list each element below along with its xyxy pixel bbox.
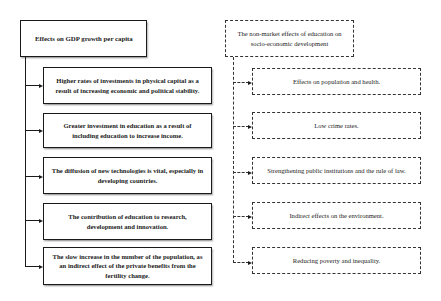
left-connector-1	[25, 85, 40, 86]
gdp-effect-item-2: Greater investment in education as a res…	[43, 113, 212, 148]
right-connector-5	[233, 262, 249, 263]
non-market-effect-item-3: Strengthening public institutions and th…	[252, 157, 421, 184]
right-connector-3	[233, 172, 249, 173]
left-connector-4	[25, 220, 40, 221]
non-market-effects-title: The non-market effects of education on s…	[232, 29, 347, 48]
gdp-effect-item-4: The contribution of education to researc…	[43, 203, 212, 240]
non-market-effect-item-4: Indirect effects on the environment.	[252, 202, 421, 229]
left-connector-5	[25, 266, 40, 267]
non-market-effect-item-1: Effects on population and health.	[252, 68, 421, 95]
non-market-effect-item-5: Reducing poverty and inequality.	[252, 247, 421, 274]
gdp-effects-title: Effects on GDP growth per capita	[35, 34, 133, 44]
non-market-effect-item-2: Low crime rates.	[252, 112, 421, 139]
left-connector-2	[25, 130, 40, 131]
left-connector-3	[25, 176, 40, 177]
non-market-effects-header: The non-market effects of education on s…	[225, 20, 354, 57]
gdp-effect-item-5: The slow increase in the number of the p…	[43, 247, 212, 285]
right-connector-4	[233, 216, 249, 217]
gdp-effect-item-3: The diffusion of new technologies is vit…	[43, 157, 212, 194]
gdp-effects-header: Effects on GDP growth per capita	[20, 20, 147, 57]
right-trunk-line	[233, 57, 234, 263]
right-connector-1	[233, 82, 249, 83]
left-trunk-line	[25, 57, 26, 267]
right-connector-2	[233, 126, 249, 127]
gdp-effect-item-1: Higher rates of investments in physical …	[43, 67, 212, 104]
